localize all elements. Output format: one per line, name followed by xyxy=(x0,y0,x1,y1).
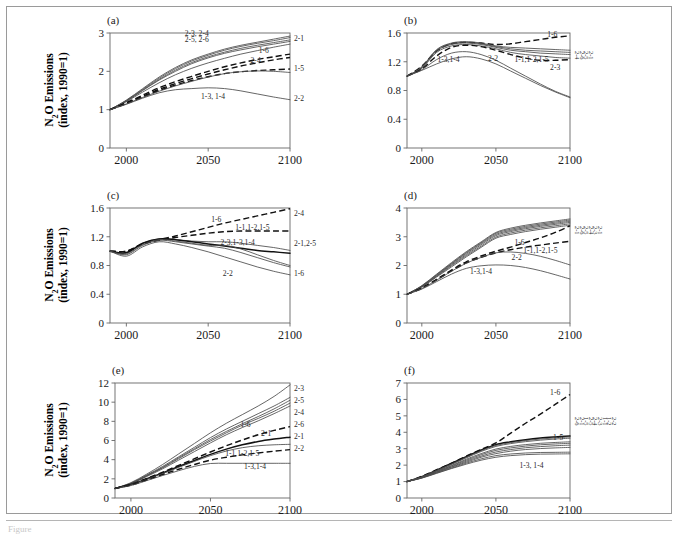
y-tick-label: 0.8 xyxy=(387,84,401,96)
panel-c: (c)00.40.81.21.62000205021001-61-1,1-2,1… xyxy=(90,189,316,342)
y-tick-label: 6 xyxy=(104,434,110,446)
y-tick-label: 0 xyxy=(396,492,402,504)
curve-label: 1-6 xyxy=(259,46,269,55)
edge-label: 1-6 xyxy=(294,269,304,278)
edge-label: 2-1 xyxy=(294,432,304,441)
y-tick-label: 4 xyxy=(104,453,110,465)
six-panel-chart-canvas: N2O Emissions(index, 1990=1)N2O Emission… xyxy=(7,7,673,515)
stack-label: 2-1 xyxy=(597,226,604,235)
y-axis-title-line2: (index, 1990=1) xyxy=(57,227,70,303)
y-tick-label: 12 xyxy=(98,377,109,389)
curve-label: 1-6 xyxy=(550,388,560,397)
curve-label: 2-3 xyxy=(550,63,560,72)
edge-label: 2-2 xyxy=(294,444,304,453)
y-tick-label: 5 xyxy=(396,410,402,422)
x-tick-label: 2000 xyxy=(114,153,138,167)
edge-label: 2-6 xyxy=(294,420,304,429)
y-tick-label: 1.2 xyxy=(90,231,104,243)
x-tick-label: 2100 xyxy=(278,153,302,167)
figure-caption: Figure xyxy=(8,524,32,534)
curve-label: 1-3, 1-4 xyxy=(519,461,543,470)
x-tick-label: 2100 xyxy=(558,153,582,167)
x-tick-label: 2100 xyxy=(558,328,582,342)
curve-label: 1-5 xyxy=(553,433,563,442)
plot-frame-1 xyxy=(407,33,570,148)
x-tick-label: 2050 xyxy=(198,503,222,515)
y-tick-label: 6 xyxy=(396,393,402,405)
figure-frame: N2O Emissions(index, 1990=1)N2O Emission… xyxy=(6,6,672,514)
edge-label: 1-5 xyxy=(294,64,304,73)
x-tick-label: 2100 xyxy=(278,503,302,515)
x-tick-label: 2100 xyxy=(278,328,302,342)
curve-label: 2-2 xyxy=(512,253,522,262)
curve-label: 1-3, 1-4 xyxy=(201,92,225,101)
x-tick-label: 2050 xyxy=(484,503,508,515)
edge-label: 2-2 xyxy=(294,94,304,103)
y-axis-title-line2: (index, 1990=1) xyxy=(57,52,70,128)
y-tick-label: 2 xyxy=(396,459,402,471)
y-tick-label: 2 xyxy=(396,259,402,271)
edge-label: 2-4 xyxy=(294,408,304,417)
plot-frame-5 xyxy=(407,383,570,498)
x-tick-label: 2000 xyxy=(410,153,434,167)
curve-label: 2-2 xyxy=(223,269,233,278)
y-tick-label: 0 xyxy=(99,317,105,329)
curve-label: 2-1 xyxy=(261,429,271,438)
stack-label: 2-2 xyxy=(611,417,618,426)
curve-label: 1-1,1-2,1-5 xyxy=(235,223,269,232)
x-tick-label: 2050 xyxy=(484,328,508,342)
curve-label: 1-3,1-4 xyxy=(437,55,459,64)
y-tick-label: 0 xyxy=(396,142,402,154)
x-tick-label: 2050 xyxy=(196,328,220,342)
caption-divider xyxy=(6,520,672,521)
x-tick-label: 2000 xyxy=(410,503,434,515)
curve-label: 1-6 xyxy=(240,420,250,429)
y-tick-label: 1 xyxy=(396,475,402,487)
curve-label: 2-4 xyxy=(251,56,261,65)
y-axis-title: N2O Emissions(index, 1990=1) xyxy=(43,402,70,478)
curve-2-5 xyxy=(115,397,290,488)
edge-label: 2-5 xyxy=(294,396,304,405)
y-tick-label: 4 xyxy=(396,426,402,438)
y-axis-title: N2O Emissions(index, 1990=1) xyxy=(43,52,70,128)
curve-label: 1-3,1-4 xyxy=(470,267,492,276)
curve-label: 1-6 xyxy=(547,30,557,39)
panel-tag-3: (d) xyxy=(404,189,417,202)
curve-2-4 xyxy=(115,400,290,488)
curve-2-3 xyxy=(407,445,570,481)
curve-label: 1-3,1-4 xyxy=(244,462,266,471)
y-tick-label: 1 xyxy=(99,103,105,115)
edge-label: 2-4 xyxy=(294,209,304,218)
y-tick-label: 1.2 xyxy=(387,56,401,68)
y-tick-label: 0 xyxy=(396,317,402,329)
stack-label: 2-1 xyxy=(588,51,595,60)
y-tick-label: 1 xyxy=(396,288,402,300)
curve-label: 2-2 xyxy=(488,54,498,63)
curve-label: 1-6 xyxy=(211,215,221,224)
y-tick-label: 2 xyxy=(99,65,105,77)
curve-label: 2-3,1-3,1-4 xyxy=(221,238,255,247)
y-tick-label: 0 xyxy=(104,492,110,504)
x-tick-label: 2000 xyxy=(119,503,143,515)
y-tick-label: 2 xyxy=(104,473,110,485)
y-tick-label: 3 xyxy=(99,27,105,39)
curve-label: 1-1,1-2,1-5 xyxy=(225,449,259,458)
y-tick-label: 3 xyxy=(396,443,402,455)
panel-tag-5: (f) xyxy=(404,364,415,377)
curve-1-31-4 xyxy=(407,454,570,482)
x-tick-label: 2050 xyxy=(196,153,220,167)
panel-tag-0: (a) xyxy=(107,14,120,27)
panel-d: (d)012342000205021001-61-1,1-2,1-52-21-3… xyxy=(396,189,605,342)
curve-label: 2-5, 2-6 xyxy=(185,35,209,44)
y-tick-label: 10 xyxy=(98,396,110,408)
y-tick-label: 1.6 xyxy=(90,202,104,214)
y-tick-label: 3 xyxy=(396,231,402,243)
x-tick-label: 2000 xyxy=(410,328,434,342)
x-tick-label: 2050 xyxy=(484,153,508,167)
curve-label: 1-1,1-2,1-5 xyxy=(523,246,557,255)
panel-tag-2: (c) xyxy=(107,189,120,202)
y-axis-title: N2O Emissions(index, 1990=1) xyxy=(43,227,70,303)
panel-tag-1: (b) xyxy=(404,14,417,27)
x-tick-label: 2100 xyxy=(558,503,582,515)
edge-label: 2-1,2-5 xyxy=(294,239,316,248)
